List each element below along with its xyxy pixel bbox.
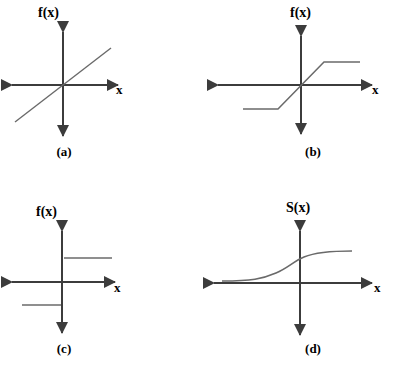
panel-d: S(x) x (d) xyxy=(200,187,400,373)
panel-a: f(x) x (a) xyxy=(0,0,200,186)
panel-c-caption: (c) xyxy=(44,342,84,355)
panel-d-caption: (d) xyxy=(293,342,333,355)
panel-b: f(x) x (b) xyxy=(200,0,400,186)
panel-b-caption: (b) xyxy=(293,145,333,158)
panel-d-curve-sigmoid xyxy=(222,251,352,281)
panel-a-plot xyxy=(0,0,200,186)
panel-c: f(x) x (c) xyxy=(0,187,200,373)
figure-root: f(x) x (a) f(x) x xyxy=(0,0,401,373)
panel-b-plot xyxy=(200,0,400,186)
panel-a-caption: (a) xyxy=(44,145,84,158)
panel-c-plot xyxy=(0,187,200,373)
